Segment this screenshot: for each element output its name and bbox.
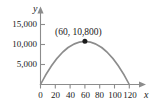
y-axis-arrowhead (37, 7, 43, 14)
parabola-chart-figure: y x 15,000 10,000 5,000 0 20 40 60 80 10… (0, 0, 155, 105)
y-tick-label-15000: 15,000 (0, 20, 37, 29)
x-axis-arrowhead (139, 81, 146, 87)
y-tick-label-5000: 5,000 (0, 60, 37, 69)
x-axis-label: x (144, 90, 148, 100)
x-tick-label-120: 120 (120, 91, 140, 100)
vertex-annotation-label: (60, 10,800) (55, 28, 102, 38)
vertex-point-marker (82, 39, 87, 44)
y-tick-label-10000: 10,000 (0, 40, 37, 49)
parabola-curve (41, 41, 130, 84)
x-tick-label-0: 0 (33, 91, 48, 100)
y-axis-label: y (33, 4, 37, 14)
